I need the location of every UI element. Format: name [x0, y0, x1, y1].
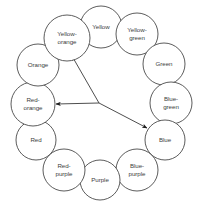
- node-label-blue-purple: Blue-purple: [129, 162, 147, 177]
- node-label-green: Green: [156, 60, 174, 67]
- node-label-yellow-green: Yellow-green: [127, 26, 146, 41]
- node-label-blue: Blue: [159, 136, 172, 143]
- triad-arrow-group: [56, 56, 147, 128]
- arrow-blue: [99, 103, 147, 128]
- color-node-purple[interactable]: Purple: [80, 160, 120, 200]
- node-label-red: Red: [30, 136, 42, 143]
- node-label-blue-green: Blue-green: [163, 95, 179, 110]
- color-node-green[interactable]: Green: [143, 43, 185, 85]
- node-label-purple: Purple: [91, 176, 109, 183]
- color-wheel-diagram: YellowYellow-greenGreenBlue-greenBlueBlu…: [0, 0, 200, 203]
- arrow-red-orange: [56, 103, 99, 104]
- color-wheel-canvas: YellowYellow-greenGreenBlue-greenBlueBlu…: [0, 0, 200, 203]
- node-label-yellow-orange: Yellow-orange: [57, 30, 77, 45]
- color-node-yellow-orange[interactable]: Yellow-orange: [44, 15, 90, 61]
- color-node-blue-purple[interactable]: Blue-purple: [116, 149, 158, 191]
- arrow-yellow-orange: [72, 56, 99, 103]
- node-label-yellow: Yellow: [92, 23, 110, 30]
- color-node-red-orange[interactable]: Red-orange: [11, 82, 55, 126]
- node-label-orange: Orange: [28, 61, 49, 68]
- color-node-group: YellowYellow-greenGreenBlue-greenBlueBlu…: [11, 6, 192, 200]
- node-label-red-purple: Red-purple: [56, 162, 74, 177]
- color-node-blue-green[interactable]: Blue-green: [150, 82, 192, 124]
